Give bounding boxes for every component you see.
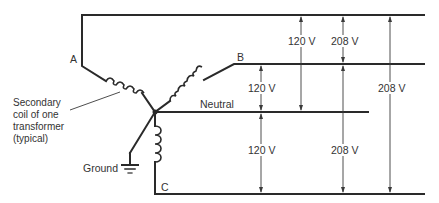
ground-label: Ground	[82, 162, 119, 174]
voltage-b-to-c: 208 V	[330, 144, 359, 156]
voltage-c-to-neutral: 120 V	[247, 144, 276, 156]
phase-a-coil-icon	[106, 78, 144, 93]
ground-connection	[122, 112, 155, 173]
voltage-a-to-c: 208 V	[377, 82, 406, 94]
phase-b-label: B	[236, 51, 245, 63]
ground-symbol-icon	[122, 165, 138, 173]
phase-c-coil-icon	[155, 126, 161, 162]
neutral-conductor	[153, 110, 369, 115]
voltage-b-to-neutral: 120 V	[247, 82, 276, 94]
phase-b-coil-icon	[170, 66, 202, 101]
wye-transformer-diagram: A B C Neutral Ground Secondary coil of o…	[0, 0, 439, 203]
phase-a-label: A	[69, 53, 78, 65]
coil-note: Secondary coil of one transformer (typic…	[13, 97, 64, 145]
voltage-arrows	[259, 16, 392, 193]
coil-note-leader	[70, 92, 120, 110]
voltage-a-to-neutral: 120 V	[287, 35, 316, 47]
phase-c-conductor	[155, 112, 424, 194]
phase-c-label: C	[160, 181, 170, 193]
voltage-a-to-b: 208 V	[330, 35, 359, 47]
neutral-label: Neutral	[199, 98, 235, 110]
